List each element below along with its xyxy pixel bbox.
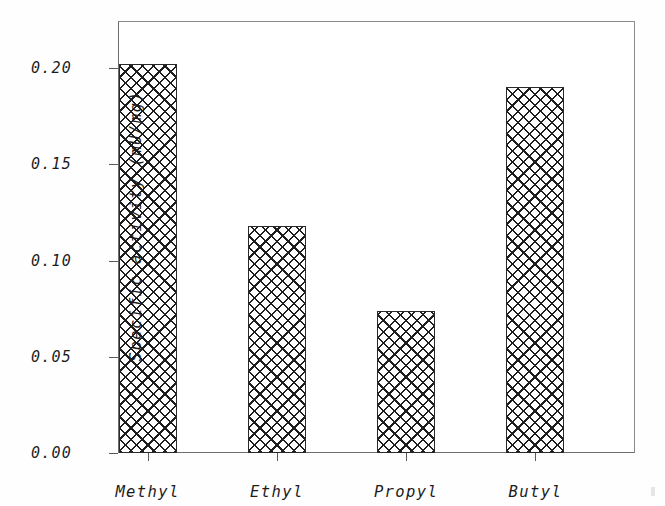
y-tick-label-4: 0.20 <box>31 59 72 77</box>
y-tick-label-0: 0.00 <box>31 444 72 462</box>
y-tick-mark-0 <box>109 453 118 454</box>
x-tick-mark-methyl <box>148 453 149 461</box>
x-tick-mark-propyl <box>406 453 407 461</box>
y-tick-mark-3 <box>109 164 118 165</box>
y-tick-label-2: 0.10 <box>31 252 72 270</box>
bar-propyl <box>377 311 435 453</box>
scan-artifact <box>651 487 655 496</box>
x-tick-label-butyl: Butyl <box>509 483 563 501</box>
x-tick-mark-butyl <box>535 453 536 461</box>
x-tick-label-propyl: Propyl <box>374 483 438 501</box>
y-tick-mark-1 <box>109 357 118 358</box>
bar-ethyl <box>248 226 306 453</box>
y-axis-title: Specific activity (mU/mg) <box>127 56 145 396</box>
x-tick-mark-ethyl <box>277 453 278 461</box>
figure-canvas: 0.00 0.05 0.10 0.15 0.20 Methyl Ethyl Pr… <box>0 0 665 506</box>
y-tick-mark-4 <box>109 68 118 69</box>
y-tick-mark-2 <box>109 261 118 262</box>
plot-area: 0.00 0.05 0.10 0.15 0.20 Methyl Ethyl Pr… <box>118 21 635 453</box>
bar-butyl <box>506 87 564 453</box>
x-tick-label-ethyl: Ethyl <box>250 483 304 501</box>
y-tick-label-1: 0.05 <box>31 348 72 366</box>
x-tick-label-methyl: Methyl <box>115 483 179 501</box>
y-tick-label-3: 0.15 <box>31 155 72 173</box>
